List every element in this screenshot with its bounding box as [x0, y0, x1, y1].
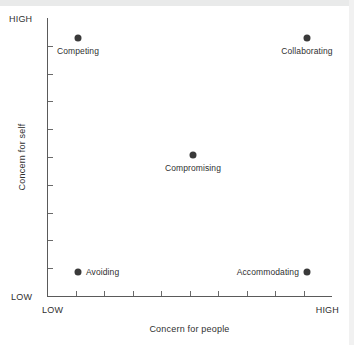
- y-axis-tick: [48, 74, 53, 75]
- y-axis-title: Concern for self: [17, 112, 27, 202]
- x-axis-line: [47, 296, 332, 297]
- data-point-label: Collaborating: [281, 46, 332, 56]
- y-axis-tick: [48, 240, 53, 241]
- y-axis-tick: [48, 129, 53, 130]
- data-point: [190, 152, 197, 159]
- x-axis-high-label: HIGH: [316, 305, 339, 315]
- data-point-label: Avoiding: [86, 267, 119, 277]
- page-right-strip: [349, 0, 354, 345]
- y-axis-low-label: LOW: [11, 292, 32, 302]
- data-point: [75, 35, 82, 42]
- y-axis-tick: [48, 157, 53, 158]
- x-axis-tick: [275, 291, 276, 296]
- data-point-label: Compromising: [165, 163, 221, 173]
- y-axis-tick: [48, 185, 53, 186]
- y-axis-tick: [48, 101, 53, 102]
- data-point-label: Competing: [57, 46, 99, 56]
- x-axis-tick: [104, 291, 105, 296]
- data-point: [304, 269, 311, 276]
- conflict-mode-scatter-chart: CompetingCollaboratingCompromisingAvoidi…: [0, 0, 354, 345]
- x-axis-tick: [218, 291, 219, 296]
- y-axis-tick: [48, 46, 53, 47]
- x-axis-tick: [76, 291, 77, 296]
- page-top-band: [0, 0, 354, 6]
- x-axis-low-label: LOW: [42, 305, 63, 315]
- x-axis-tick: [133, 291, 134, 296]
- data-point-label: Accommodating: [237, 267, 299, 277]
- x-axis-tick: [304, 291, 305, 296]
- y-axis-high-label: HIGH: [9, 14, 32, 24]
- x-axis-tick: [190, 291, 191, 296]
- x-axis-tick: [161, 291, 162, 296]
- x-axis-tick: [247, 291, 248, 296]
- x-axis-title: Concern for people: [47, 324, 332, 334]
- y-axis-tick: [48, 268, 53, 269]
- y-axis-tick: [48, 213, 53, 214]
- data-point: [304, 35, 311, 42]
- data-point: [75, 269, 82, 276]
